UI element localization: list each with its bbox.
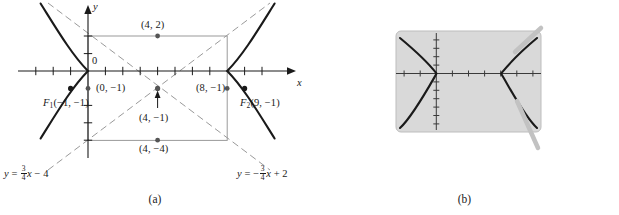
label-focus-left: F1F₁(−1, −1)(−1, −1)	[43, 98, 89, 110]
panel-a-x-axis-label: x	[297, 78, 302, 89]
label-point-4-neg4: (4, −4)	[139, 144, 168, 155]
center-pointer-arrow	[155, 91, 161, 109]
panel-a-y-axis-label: y	[93, 2, 98, 13]
point-8-neg1	[225, 86, 230, 91]
label-point-4-2: (4, 2)	[141, 20, 164, 31]
point-4-neg1	[155, 86, 160, 91]
point-0-neg1	[86, 86, 91, 91]
panel-b-graph	[310, 0, 619, 215]
label-point-8-neg1: (8, −1)	[196, 83, 225, 94]
fraction-three-fourths: 34	[21, 165, 27, 182]
panel-a-origin-label: 0	[92, 56, 97, 67]
figure-panel-b: 5 −5 13 −7 y = −1 + 0.75√x2 − 8x y = −1 …	[310, 0, 619, 215]
label-point-4-neg1: (4, −1)	[139, 113, 168, 124]
x-axis	[18, 67, 296, 75]
label-asymptote-positive-slope: y = 34x − 4	[4, 165, 49, 182]
y-axis	[84, 5, 92, 158]
label-asymptote-negative-slope: y = −34x + 2	[237, 165, 288, 182]
panel-b-caption: (b)	[310, 193, 619, 205]
fraction-three-fourths-neg: 34	[260, 165, 266, 182]
label-point-0-neg1: (0, −1)	[96, 83, 125, 94]
point-focus-left	[68, 86, 73, 91]
panel-a-caption: (a)	[0, 193, 310, 205]
point-4-neg4	[155, 138, 160, 143]
point-4-2	[155, 34, 160, 39]
label-focus-right: F2F₂(9, −1)(9, −1)	[240, 98, 280, 110]
figure-panel-a: x y 0 (4, 2) (0, −1) (8, −1) (4, −1) (4,…	[0, 0, 310, 215]
point-focus-right	[242, 86, 247, 91]
